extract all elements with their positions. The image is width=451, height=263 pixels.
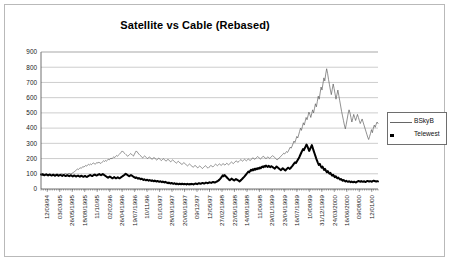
series-line-bskyb [41, 69, 378, 176]
x-axis-tick-label: 03/03/95 [56, 194, 63, 219]
y-axis-tick-label: 200 [26, 155, 37, 162]
chart-plot-area: 0100200300400500600700800900 12/09/9403/… [5, 5, 446, 258]
x-axis-tick-labels: 12/09/9403/03/9526/05/199518/08/199511/1… [43, 194, 375, 226]
x-axis-tick-label: 02/02/96 [106, 194, 113, 219]
x-axis-tick-label: 26/04/1996 [118, 194, 125, 226]
y-axis-tick-label: 700 [26, 79, 37, 86]
y-axis-tick-label: 0 [33, 185, 37, 192]
x-axis-tick-label: 01/03/97 [156, 194, 163, 219]
x-axis-tick-label: 24/03/2000 [331, 194, 338, 226]
x-axis-tick-label: 27/02/1998 [218, 194, 225, 226]
x-axis-tick-label: 31/12/1999 [318, 194, 325, 226]
x-axis-tick-label: 12/05/97 [206, 194, 213, 219]
x-axis-tick-label: 12/09/94 [43, 194, 50, 219]
x-axis-tick-label: 14/08/1998 [243, 194, 250, 226]
x-axis-tick-label: 16/07/1999 [293, 194, 300, 226]
x-axis-tick-label: 11/06/98 [256, 194, 263, 218]
legend-item-telewest: Telewest [390, 129, 446, 141]
x-axis-tick-label: 19/07/1996 [131, 194, 138, 226]
chart-legend: BSkyB Telewest [387, 112, 447, 145]
data-series [41, 69, 378, 185]
y-axis-tick-label: 600 [26, 94, 37, 101]
x-axis-tick-label: 10/11/96 [143, 194, 150, 218]
gridlines [41, 52, 378, 174]
x-axis-tick-label: 09/12/97 [193, 194, 200, 219]
y-axis-tick-label: 100 [26, 170, 37, 177]
x-axis-tick-label: 12/01/00 [368, 194, 375, 219]
legend-swatch-line-icon [390, 122, 412, 123]
x-axis-tick-label: 16/06/2000 [343, 194, 350, 226]
x-axis-tick-label: 26/05/1995 [68, 194, 75, 226]
x-axis-tick-label: 18/08/1995 [81, 194, 88, 226]
x-axis-tick-label: 29/01/1999 [268, 194, 275, 226]
legend-swatch-dashed-icon [390, 134, 412, 137]
x-axis-tick-label: 23/04/1999 [281, 194, 288, 226]
x-axis-tick-label: 20/06/1997 [181, 194, 188, 226]
y-axis-tick-label: 500 [26, 109, 37, 116]
x-axis-tick-label: 28/03/1997 [168, 194, 175, 226]
y-axis-tick-label: 900 [26, 48, 37, 55]
legend-label: Telewest [414, 130, 440, 137]
x-axis-tick-label: 11/10/95 [93, 194, 100, 218]
chart-frame: Satellite vs Cable (Rebased) 01002003004… [4, 4, 445, 257]
y-axis-tick-label: 800 [26, 64, 37, 71]
legend-item-bskyb: BSkyB [390, 116, 446, 128]
y-axis-tick-labels: 0100200300400500600700800900 [26, 48, 37, 192]
y-axis-tick-label: 300 [26, 140, 37, 147]
legend-label: BSkyB [414, 117, 434, 124]
x-axis-tick-label: 09/08/00 [355, 194, 362, 219]
x-axis-tick-label: 10/08/99 [306, 194, 313, 219]
x-axis-tick-label: 22/05/1998 [231, 194, 238, 226]
y-axis-tick-label: 400 [26, 124, 37, 131]
